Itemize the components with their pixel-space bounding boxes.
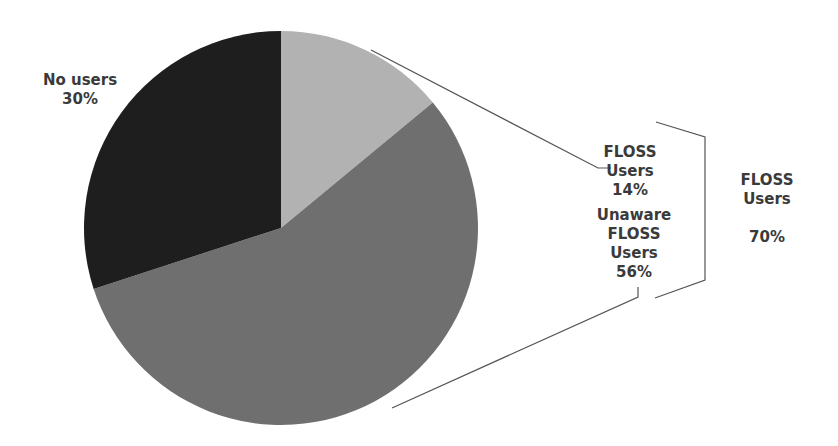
- label-floss-users: FLOSS Users 14%: [600, 143, 660, 200]
- label-unaware-line1: Unaware: [596, 206, 672, 225]
- label-floss-users-value: 14%: [600, 181, 660, 200]
- label-no-users: No users 30%: [40, 71, 120, 109]
- label-no-users-value: 30%: [40, 90, 120, 109]
- label-floss-users-line2: Users: [600, 162, 660, 181]
- label-group-line1: FLOSS: [732, 171, 802, 190]
- pie-chart: [0, 0, 838, 446]
- label-floss-users-line1: FLOSS: [600, 143, 660, 162]
- label-unaware-line2: FLOSS: [596, 225, 672, 244]
- label-unaware-floss-users: Unaware FLOSS Users 56%: [596, 206, 672, 282]
- label-group-value: 70%: [732, 228, 802, 247]
- label-unaware-value: 56%: [596, 263, 672, 282]
- label-unaware-line3: Users: [596, 244, 672, 263]
- label-no-users-name: No users: [40, 71, 120, 90]
- pie-slices: [84, 31, 478, 425]
- label-group-line2: Users: [732, 190, 802, 209]
- label-group-floss-users: FLOSS Users 70%: [732, 171, 802, 247]
